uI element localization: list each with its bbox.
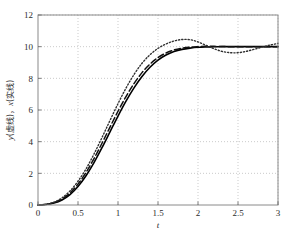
y-tick-label: 4 xyxy=(29,137,34,147)
y-tick-label: 6 xyxy=(29,105,34,115)
y-tick-label: 2 xyxy=(29,169,34,179)
y-axis-title-y-note: (虚线) xyxy=(5,114,15,136)
y-axis-title: y(虚线)，x(实线) xyxy=(5,80,15,142)
y-tick-label: 12 xyxy=(24,10,33,20)
x-tick-label: 1 xyxy=(116,208,121,218)
chart-canvas: 00.511.522.53 024681012 t y(虚线)，x(实线) xyxy=(0,0,292,239)
x-tick-label: 0 xyxy=(36,208,41,218)
x-tick-label: 1.5 xyxy=(152,208,164,218)
x-tick-label: 2 xyxy=(196,208,201,218)
x-tick-label: 3 xyxy=(276,208,281,218)
x-tick-label: 0.5 xyxy=(72,208,84,218)
y-axis-title-x-note: (实线) xyxy=(5,80,15,102)
x-tick-label: 2.5 xyxy=(232,208,244,218)
y-tick-label: 8 xyxy=(29,74,34,84)
y-axis-title-separator: ， xyxy=(6,106,15,114)
figure-container: 00.511.522.53 024681012 t y(虚线)，x(实线) xyxy=(0,0,292,239)
y-tick-label: 0 xyxy=(29,200,34,210)
y-tick-label: 10 xyxy=(24,42,34,52)
svg-text:y(虚线)，x(实线): y(虚线)，x(实线) xyxy=(5,80,15,142)
